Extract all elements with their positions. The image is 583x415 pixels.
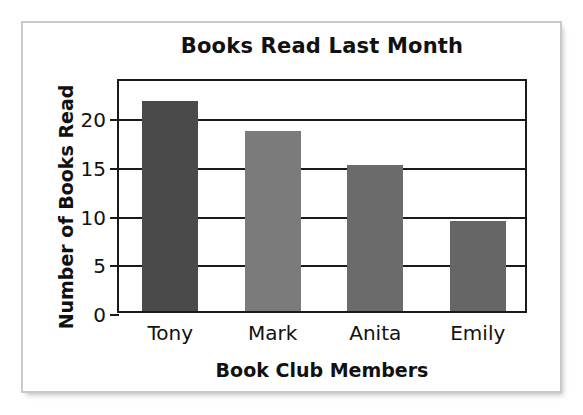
bar-mark <box>245 131 301 311</box>
x-tick-label-anita: Anita <box>324 321 427 345</box>
x-tick-label-emily: Emily <box>427 321 530 345</box>
x-tick-label-tony: Tony <box>119 321 222 345</box>
bar-emily <box>450 221 506 311</box>
y-tick-mark <box>110 314 119 316</box>
y-tick-label: 5 <box>93 256 106 276</box>
y-axis-title: Number of Books Read <box>55 82 77 332</box>
y-tick-mark <box>110 217 119 219</box>
bar-tony <box>142 101 198 311</box>
x-axis-title: Book Club Members <box>117 359 527 381</box>
y-tick-mark <box>110 265 119 267</box>
plot-area: 05101520 TonyMarkAnitaEmily <box>117 79 527 313</box>
y-tick-mark <box>110 168 119 170</box>
bar-anita <box>347 165 403 311</box>
chart-title: Books Read Last Month <box>117 34 527 58</box>
y-tick-label: 0 <box>93 305 106 325</box>
y-tick-label: 10 <box>81 208 106 228</box>
x-tick-label-mark: Mark <box>222 321 325 345</box>
y-tick-mark <box>110 119 119 121</box>
chart-figure: Books Read Last Month Number of Books Re… <box>0 0 583 415</box>
y-tick-label: 20 <box>81 110 106 130</box>
y-tick-label: 15 <box>81 159 106 179</box>
